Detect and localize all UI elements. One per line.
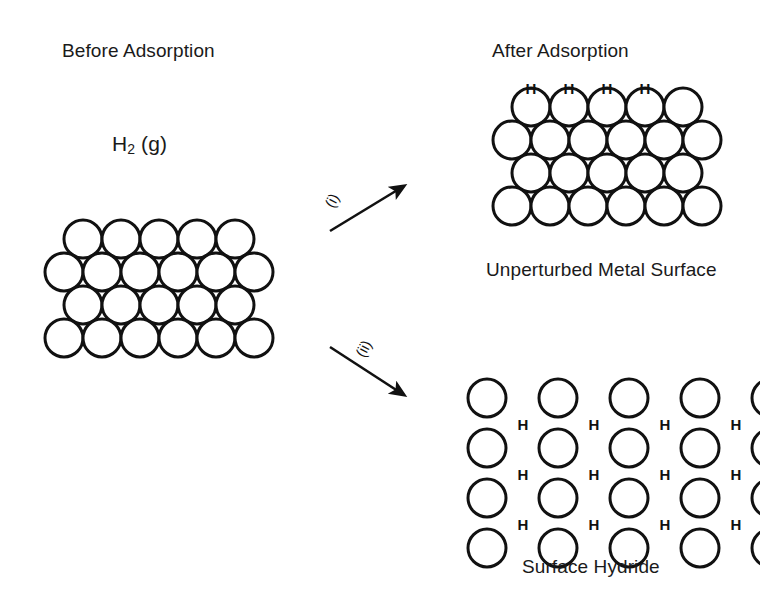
figure-canvas: Before Adsorption After Adsorption H2 (g…	[0, 0, 760, 611]
reaction-arrows	[0, 0, 760, 611]
arrow-step-i	[330, 186, 404, 231]
caption-surface-hydride: Surface Hydride	[522, 556, 660, 578]
caption-unperturbed-metal-surface: Unperturbed Metal Surface	[486, 259, 717, 281]
